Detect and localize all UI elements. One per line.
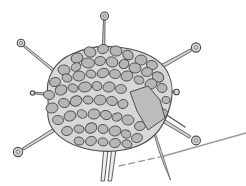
fiber-shaft-top (102, 20, 105, 48)
fiber-shaft-lower-left (22, 129, 55, 150)
fiber-shaft-left-stub (35, 92, 44, 95)
capsomere (115, 84, 127, 94)
virus-illustration (0, 0, 246, 186)
fiber-knob-lower-left (13, 147, 22, 156)
fiber-knob-top (101, 12, 109, 20)
surface-line-dashed (119, 156, 164, 166)
fiber-knob-upper-left (17, 39, 25, 47)
fiber-knob-left-stub (30, 91, 34, 95)
fiber-knob-right-stub (174, 89, 180, 95)
fiber-knob-upper-right (191, 43, 200, 52)
fiber-knob-lower-right (192, 136, 201, 145)
illustration-canvas (0, 0, 246, 186)
surface-line-solid (164, 133, 246, 156)
